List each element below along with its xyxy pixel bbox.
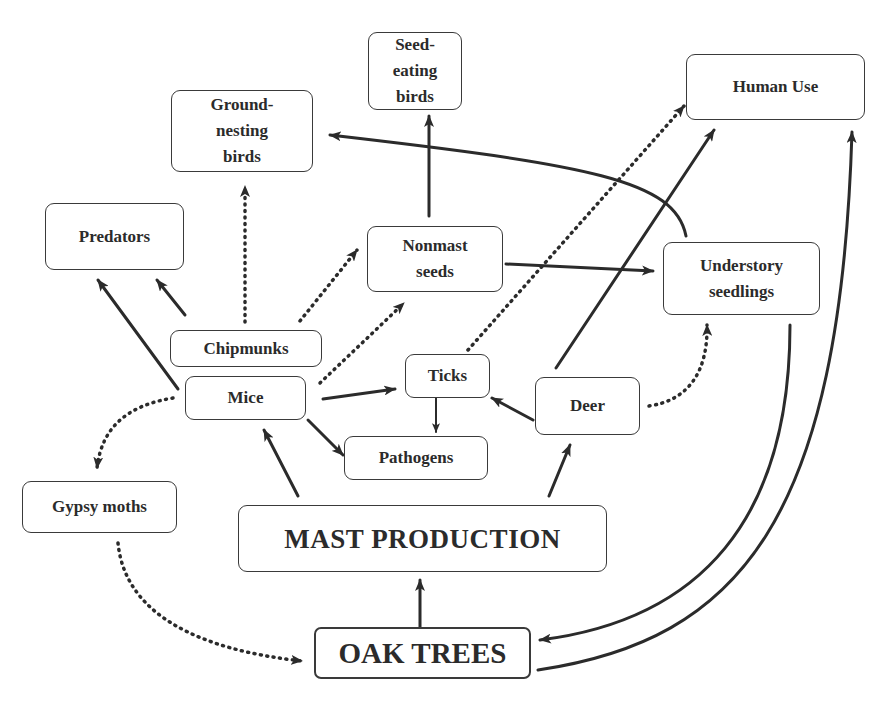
edge-chipmunks-to-predators <box>157 280 185 315</box>
edge-deer-to-understory <box>649 325 707 406</box>
node-label: Predators <box>79 224 150 250</box>
node-human-use: Human Use <box>686 54 865 120</box>
oak-mast-food-web-diagram: Seed- eating birds Ground- nesting birds… <box>0 0 887 704</box>
edge-mice-to-nonmast <box>320 303 404 383</box>
node-deer: Deer <box>535 377 640 435</box>
node-pathogens: Pathogens <box>344 436 488 480</box>
edge-understory-to-oak-trees <box>540 325 790 640</box>
node-label: Chipmunks <box>203 336 288 362</box>
edge-mice-to-ticks <box>323 389 395 399</box>
node-ticks: Ticks <box>405 354 490 398</box>
node-label: Nonmast seeds <box>402 233 467 285</box>
node-chipmunks: Chipmunks <box>170 330 322 367</box>
edge-nonmast-to-understory <box>506 264 653 271</box>
node-label: MAST PRODUCTION <box>284 526 560 552</box>
edge-deer-to-ticks <box>492 398 533 420</box>
node-gypsy-moths: Gypsy moths <box>22 481 177 533</box>
node-predators: Predators <box>45 203 184 270</box>
node-label: Deer <box>570 393 605 419</box>
node-label: Ticks <box>428 363 467 389</box>
node-label: Ground- nesting birds <box>211 92 274 170</box>
node-understory-seedlings: Understory seedlings <box>663 242 820 315</box>
edge-mice-to-predators <box>98 280 178 389</box>
node-label: Mice <box>228 385 264 411</box>
node-mice: Mice <box>185 376 306 420</box>
edge-mast-to-mice <box>264 430 298 496</box>
node-nonmast-seeds: Nonmast seeds <box>367 226 503 292</box>
edge-understory-to-ground-nesting-birds <box>330 135 686 236</box>
edge-mast-to-deer <box>549 445 570 496</box>
edge-chipmunks-to-nonmast <box>300 250 357 321</box>
node-label: Human Use <box>733 74 818 100</box>
node-label: Pathogens <box>379 445 454 471</box>
node-mast-production: MAST PRODUCTION <box>238 505 607 572</box>
edge-mice-to-pathogens <box>308 420 343 455</box>
node-label: OAK TREES <box>339 640 507 666</box>
edge-mice-to-gypsy-moths <box>97 398 173 468</box>
node-label: Understory seedlings <box>700 253 783 305</box>
node-ground-nesting-birds: Ground- nesting birds <box>171 90 313 172</box>
node-seed-eating-birds: Seed- eating birds <box>368 32 462 110</box>
node-oak-trees: OAK TREES <box>314 627 531 679</box>
node-label: Gypsy moths <box>52 494 147 520</box>
node-label: Seed- eating birds <box>393 32 437 110</box>
